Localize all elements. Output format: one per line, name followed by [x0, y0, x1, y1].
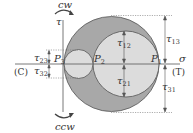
- ccw-label: ccw: [55, 121, 75, 132]
- tau31-label: τ31: [162, 81, 176, 94]
- tension-label: (T): [172, 67, 185, 77]
- tau13-label: τ13: [166, 33, 180, 46]
- sigma-axis-label: σ: [179, 53, 187, 64]
- tau32-label: τ32: [34, 65, 48, 78]
- tau-axis-label: τ: [56, 16, 62, 27]
- cw-label: cw: [58, 0, 73, 10]
- tau23-label: τ23: [34, 52, 48, 65]
- mohr-circle-diagram: cw ccw τ σ (C) (T) P1 P2 P3 τ12 τ21 τ13 …: [0, 0, 193, 133]
- cw-arrowhead: [69, 10, 74, 15]
- ccw-arrowhead: [69, 113, 74, 118]
- compression-label: (C): [14, 67, 28, 77]
